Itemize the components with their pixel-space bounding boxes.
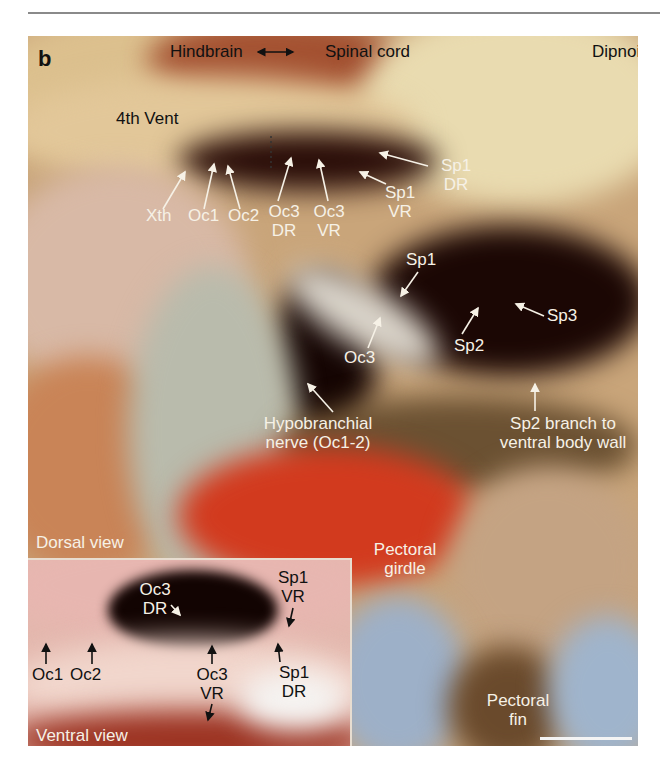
- dissection-photo: b Hindbrain Spinal cord Dipnoi 4th Vent …: [28, 36, 638, 746]
- inset-arrows: [28, 560, 350, 746]
- top-rule: [28, 12, 660, 14]
- scale-bar: [540, 737, 632, 740]
- ventral-view-inset: Oc3DR Sp1VR Oc1 Oc2 Oc3VR Sp1DR Ventral …: [28, 558, 352, 746]
